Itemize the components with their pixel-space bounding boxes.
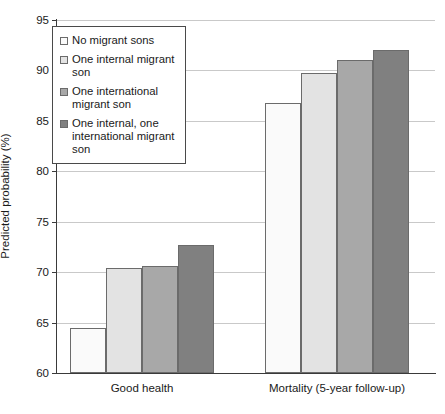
bar-chart-figure: Predicted probability (%) 60657075808590… bbox=[0, 0, 445, 414]
gridline-95 bbox=[57, 20, 435, 21]
y-tick-label-60: 60 bbox=[36, 367, 49, 379]
y-tick-label-95: 95 bbox=[36, 14, 49, 26]
legend-item-label: No migrant sons bbox=[72, 34, 154, 47]
tick-mark-75 bbox=[52, 222, 57, 223]
y-tick-label-65: 65 bbox=[36, 317, 49, 329]
legend-item: One internal, one international migrant … bbox=[60, 117, 179, 156]
category-label-2: Mortality (5-year follow-up) bbox=[269, 382, 405, 394]
bar bbox=[337, 60, 373, 373]
bar bbox=[265, 103, 301, 373]
tick-mark-60 bbox=[52, 373, 57, 374]
tick-mark-70 bbox=[52, 272, 57, 273]
legend-swatch-icon bbox=[60, 56, 68, 64]
legend-item: One internal migrant son bbox=[60, 53, 179, 79]
legend-item-label: One internal migrant son bbox=[72, 53, 179, 79]
y-tick-label-70: 70 bbox=[36, 266, 49, 278]
legend-swatch-icon bbox=[60, 120, 68, 128]
bar bbox=[70, 328, 106, 373]
y-axis-label: Predicted probability (%) bbox=[0, 133, 11, 258]
bar bbox=[142, 266, 178, 373]
category-label-1: Good health bbox=[111, 382, 174, 394]
legend-item-label: One international migrant son bbox=[72, 85, 179, 111]
y-tick-label-75: 75 bbox=[36, 216, 49, 228]
tick-mark-95 bbox=[52, 20, 57, 21]
x-axis-line bbox=[56, 373, 436, 374]
tick-mark-65 bbox=[52, 323, 57, 324]
y-tick-label-80: 80 bbox=[36, 165, 49, 177]
y-tick-label-90: 90 bbox=[36, 64, 49, 76]
y-tick-label-85: 85 bbox=[36, 115, 49, 127]
bar bbox=[373, 50, 409, 373]
legend-swatch-icon bbox=[60, 37, 68, 45]
chart-legend: No migrant sonsOne internal migrant sonO… bbox=[52, 26, 186, 164]
legend-swatch-icon bbox=[60, 88, 68, 96]
legend-item: One international migrant son bbox=[60, 85, 179, 111]
tick-mark-80 bbox=[52, 171, 57, 172]
bar bbox=[178, 245, 214, 373]
bar bbox=[106, 268, 142, 373]
legend-item: No migrant sons bbox=[60, 34, 179, 47]
legend-item-label: One internal, one international migrant … bbox=[72, 117, 179, 156]
bar bbox=[301, 73, 337, 373]
